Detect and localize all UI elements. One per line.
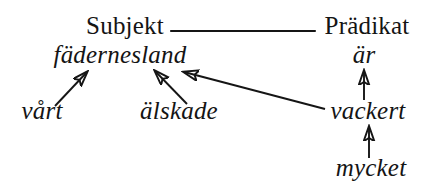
node-mycket: mycket [336,155,407,180]
node-vart: vårt [21,98,62,123]
node-fadernesland: fädernesland [54,42,187,67]
node-alskade: älskade [140,98,218,123]
node-ar: är [353,42,376,67]
node-subjekt: Subjekt [86,13,164,38]
sentence-diagram: Subjekt Prädikat fädernesland är vårt äl… [0,0,434,191]
node-vackert: vackert [331,98,406,123]
node-pradikat: Prädikat [325,13,410,38]
